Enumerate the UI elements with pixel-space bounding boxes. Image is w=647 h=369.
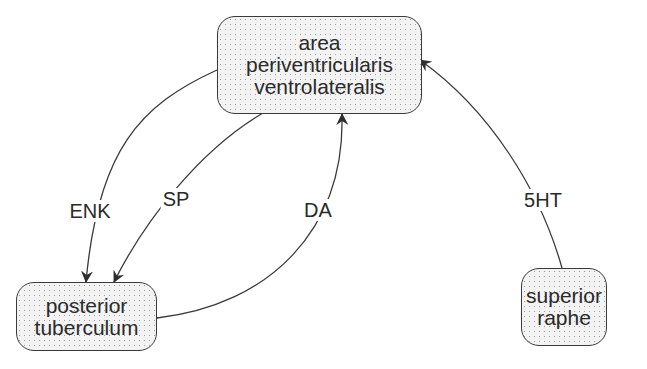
edge-label-sp: SP [161, 188, 192, 210]
edge-label-5ht: 5HT [522, 189, 564, 211]
node-label-line: posterior [46, 295, 128, 317]
edge-enk-line [86, 70, 217, 282]
node-label-line: area [298, 32, 340, 54]
node-label-line: tuberculum [35, 317, 139, 339]
node-label-line: superior [526, 285, 602, 307]
node-posterior-tuberculum: posterior tuberculum [16, 282, 157, 351]
node-superior-raphe: superior raphe [521, 268, 607, 346]
edge-5ht-line [420, 60, 562, 268]
edge-label-da: DA [302, 199, 334, 221]
edge-label-enk: ENK [67, 200, 112, 222]
node-label-line: ventrolateralis [254, 76, 385, 98]
node-area-periventricularis-ventrolateralis: area periventricularis ventrolateralis [217, 16, 422, 114]
node-label-line: raphe [537, 307, 591, 329]
node-label-line: periventricularis [246, 54, 393, 76]
